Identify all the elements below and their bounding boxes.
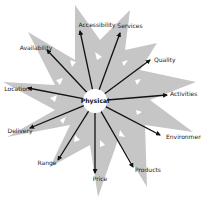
star-diagram: Physical AccessibilityServicesQualityAct…	[0, 0, 201, 201]
label-location: Location	[4, 85, 30, 92]
label-services: Services	[117, 22, 142, 29]
label-price: Price	[93, 175, 108, 182]
label-availability: Availability	[20, 44, 53, 52]
label-delivery: Delivery	[8, 127, 33, 135]
label-activities: Activities	[170, 90, 197, 97]
label-range: Range	[37, 159, 56, 167]
label-environment: Environment	[166, 133, 201, 140]
label-products: Products	[135, 166, 161, 173]
label-accessibility: Accessibility	[79, 21, 116, 29]
center-label: Physical	[81, 97, 110, 105]
label-quality: Quality	[154, 56, 176, 64]
